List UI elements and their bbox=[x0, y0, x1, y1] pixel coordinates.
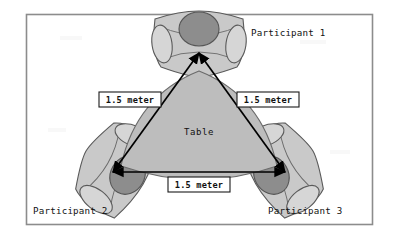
distance-callout-right-text: 1.5 meter bbox=[244, 95, 292, 105]
distance-callout-left-text: 1.5 meter bbox=[106, 95, 154, 105]
seating-diagram: Table Participant 1 Participant 2 Partic… bbox=[0, 0, 399, 237]
participant-2-label: Participant 2 bbox=[33, 205, 108, 216]
participant-3-label: Participant 3 bbox=[268, 205, 343, 216]
distance-callout-bottom: 1.5 meter bbox=[168, 177, 230, 192]
participant-1-label: Participant 1 bbox=[251, 27, 326, 38]
distance-callout-right: 1.5 meter bbox=[237, 92, 299, 107]
distance-callout-bottom-text: 1.5 meter bbox=[175, 180, 223, 190]
participant-1-head bbox=[179, 12, 219, 46]
participant-1-figure bbox=[149, 11, 248, 77]
figure-root: Table Participant 1 Participant 2 Partic… bbox=[0, 0, 399, 237]
table-label: Table bbox=[184, 127, 214, 137]
distance-callout-left: 1.5 meter bbox=[99, 92, 161, 107]
